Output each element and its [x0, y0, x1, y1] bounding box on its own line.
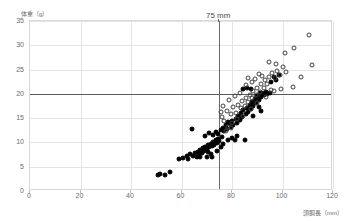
data-point [235, 117, 240, 122]
data-point [231, 105, 236, 110]
y-tick-label: 5 [2, 162, 24, 169]
x-tick-label: 0 [27, 192, 31, 199]
data-point [272, 76, 277, 81]
data-point [163, 172, 168, 177]
data-point [250, 80, 255, 85]
data-point [265, 81, 270, 86]
data-point [291, 46, 296, 51]
x-tick-label: 20 [76, 192, 84, 199]
gridline-vertical [333, 21, 334, 189]
x-axis-title: 頭胴長（mm） [303, 208, 343, 217]
x-tick-mark [181, 190, 182, 193]
data-point [283, 50, 288, 55]
x-tick-mark [29, 190, 30, 193]
gridline-horizontal [30, 45, 331, 46]
x-tick-mark [130, 190, 131, 193]
y-tick-label: 30 [2, 41, 24, 48]
data-point [233, 110, 238, 115]
y-tick-label: 25 [2, 65, 24, 72]
data-point [290, 84, 295, 89]
x-tick-mark [332, 190, 333, 193]
x-tick-label: 100 [276, 192, 288, 199]
data-point [218, 110, 223, 115]
data-point [227, 97, 232, 102]
data-point [279, 87, 284, 92]
data-point [255, 100, 260, 105]
data-point [307, 32, 312, 37]
data-point [309, 62, 314, 67]
gridline-horizontal [30, 167, 331, 168]
data-point [264, 94, 269, 99]
gridline-horizontal [30, 21, 331, 22]
data-point [271, 88, 276, 93]
data-point [266, 60, 271, 65]
data-point [243, 83, 248, 88]
data-point [241, 113, 246, 118]
data-point [214, 149, 219, 154]
plot-area [29, 20, 332, 190]
data-point [228, 126, 233, 131]
x-tick-mark [231, 190, 232, 193]
data-point [248, 106, 253, 111]
data-point [237, 91, 242, 96]
y-tick-label: 0 [2, 187, 24, 194]
data-point [209, 155, 214, 160]
data-point [168, 169, 173, 174]
reference-line-horizontal [30, 94, 331, 95]
x-tick-label: 120 [326, 192, 338, 199]
y-tick-label: 20 [2, 89, 24, 96]
data-point [232, 94, 237, 99]
gridline-horizontal [30, 142, 331, 143]
data-point [204, 154, 209, 159]
data-point [284, 69, 289, 74]
data-point [219, 134, 224, 139]
data-point [189, 126, 194, 131]
data-point [219, 114, 224, 119]
y-tick-label: 10 [2, 138, 24, 145]
data-point [251, 114, 256, 119]
x-tick-label: 40 [126, 192, 134, 199]
data-point [299, 74, 304, 79]
data-point [221, 142, 226, 147]
scatter-chart: 体重（g） 頭胴長（mm） 75 mm 020406080100120 0510… [0, 0, 346, 222]
data-point [198, 155, 203, 160]
reference-line-vertical-extension [218, 19, 219, 22]
data-point [242, 137, 247, 142]
gridline-horizontal [30, 118, 331, 119]
data-point [257, 89, 262, 94]
data-point [235, 133, 240, 138]
x-tick-label: 60 [177, 192, 185, 199]
x-tick-mark [80, 190, 81, 193]
y-tick-label: 15 [2, 114, 24, 121]
data-point [274, 61, 279, 66]
data-point [221, 104, 226, 109]
y-tick-label: 35 [2, 17, 24, 24]
data-point [260, 73, 265, 78]
data-point [185, 157, 190, 162]
y-axis-title: 体重（g） [21, 9, 48, 18]
x-tick-mark [282, 190, 283, 193]
x-tick-label: 80 [227, 192, 235, 199]
data-point [277, 72, 282, 77]
data-point [259, 108, 264, 113]
